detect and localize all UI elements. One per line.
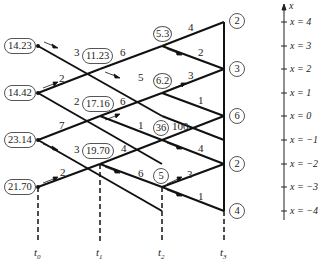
node-t3-x2: 3 [229, 61, 245, 77]
node-t0-xm1: 23.14 [4, 132, 36, 148]
axis-level: x = 4 [290, 17, 311, 27]
time-label-t3: t3 [220, 246, 227, 261]
edge-cost: 1 [198, 95, 204, 106]
axis-level: x = −3 [290, 182, 318, 192]
node-t1-x0: 17.16 [82, 96, 114, 112]
node-t2-xm1: 36 [153, 120, 169, 136]
axis-level: x = 2 [290, 64, 311, 74]
node-t3-xm4: 4 [229, 203, 245, 219]
edge-cost: 4 [121, 143, 127, 154]
time-label-t2: t2 [158, 246, 165, 261]
edge-cost: 2 [59, 73, 65, 84]
edge-cost: 4 [198, 143, 204, 154]
dynamic-programming-lattice-diagram: 14.23 14.42 23.14 21.70 11.23 17.16 19.7… [0, 0, 326, 263]
axis-level: x = 0 [290, 111, 311, 121]
edge-cost: 6 [120, 96, 126, 107]
edge-cost: 3 [74, 47, 80, 58]
axis-level: x = 3 [290, 41, 311, 51]
node-t0-x1: 14.42 [4, 85, 36, 101]
node-t2-x3: 5.3 [153, 26, 172, 42]
time-label-t0: t0 [34, 246, 41, 261]
axis-level: x = −2 [290, 159, 318, 169]
node-t2-x1: 6.2 [153, 73, 172, 89]
edge-cost: 100 [172, 121, 189, 132]
edge-cost: 7 [59, 120, 65, 131]
node-t3-x0: 6 [229, 108, 245, 124]
node-t0-x3: 14.23 [4, 38, 36, 54]
edge-cost: 6 [138, 168, 144, 179]
axis-level: x = 1 [290, 88, 311, 98]
axis-level: x = −4 [290, 206, 318, 216]
edge-cost: 6 [120, 47, 126, 58]
edge-cost: 2 [74, 96, 80, 107]
time-label-t1: t1 [96, 246, 103, 261]
edge-cost: 3 [188, 70, 194, 81]
node-t1-xm2: 19.70 [82, 143, 114, 159]
edge-cost: 2 [60, 167, 66, 178]
edge-cost: 1 [138, 120, 144, 131]
node-t1-x2: 11.23 [82, 48, 113, 64]
edge-cost: 3 [187, 169, 193, 180]
edge-cost: 3 [74, 144, 80, 155]
node-t3-xm2: 2 [229, 156, 245, 172]
edge-cost: 1 [198, 191, 204, 202]
node-t3-x4: 2 [229, 13, 245, 29]
edge-cost: 2 [198, 47, 204, 58]
edge-cost: 4 [188, 22, 194, 33]
axis-level: x = −1 [290, 135, 318, 145]
edge-cost: 5 [138, 72, 144, 83]
node-t0-xm3: 21.70 [4, 179, 36, 195]
axis-title: x [289, 1, 293, 11]
node-t2-xm3: 5 [153, 168, 169, 184]
